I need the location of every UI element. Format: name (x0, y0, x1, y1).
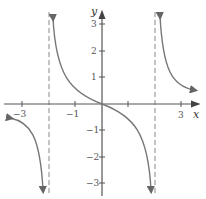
x-tick-label: 3 (178, 110, 184, 120)
chart: −3 −1 3 x 3 2 1 −1 −2 −3 y (0, 0, 206, 199)
y-tick-label: 3 (91, 19, 97, 29)
x-tick-label: −3 (13, 109, 27, 119)
y-tick-label: −2 (86, 152, 99, 162)
y-tick-label: −3 (86, 178, 100, 188)
x-axis-label: x (193, 108, 200, 121)
y-tick-label: 1 (91, 72, 97, 82)
curve-right-branch (160, 16, 194, 90)
y-axis-label: y (90, 5, 98, 18)
curve-left-branch (10, 118, 43, 190)
y-tick-label: −1 (86, 125, 99, 135)
x-tick-label: −1 (66, 109, 79, 119)
y-tick-label: 2 (91, 46, 97, 56)
